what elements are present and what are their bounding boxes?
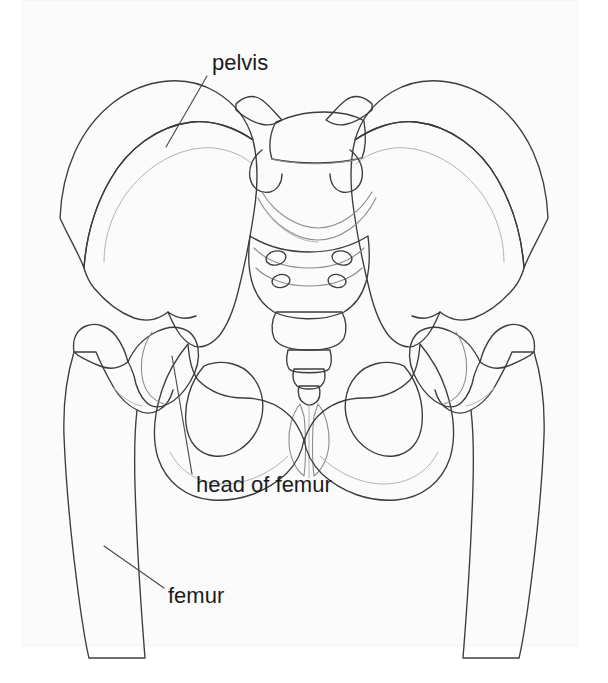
left-ilium [60,81,257,347]
label-head-of-femur: head of femur [196,472,332,497]
label-femur: femur [168,583,224,608]
leader-line-pelvis [166,76,207,147]
label-pelvis: pelvis [212,50,268,75]
sacrum [249,236,370,405]
right-ilium [351,81,548,347]
pubic-symphysis [289,404,329,478]
anatomy-figure: pelvis head of femur femur [0,0,608,683]
leader-line-femur [104,546,164,588]
right-femur [409,324,544,658]
pelvis-diagram-svg: pelvis head of femur femur [0,0,608,683]
leader-line-head-of-femur [172,356,192,474]
